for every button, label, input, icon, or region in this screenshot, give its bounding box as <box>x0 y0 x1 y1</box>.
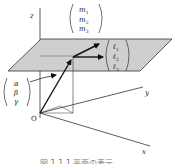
x-axis <box>40 113 150 146</box>
m-vector-right-paren <box>99 4 102 33</box>
point-vector-left-paren <box>4 78 7 106</box>
origin-label: O <box>31 115 37 123</box>
m1-label: m1 <box>79 6 89 15</box>
z-axis-label: z <box>29 12 34 20</box>
y-axis-label: y <box>144 89 150 97</box>
plane-diagram: m1 m2 m3 ℓ1 ℓ2 ℓ3 α β γ z y x O 図 1.1.1 … <box>0 0 173 164</box>
figure-caption: 図 1.1.1 平面の表示 <box>40 158 113 164</box>
m2-label: m2 <box>79 16 89 25</box>
point-vector-right-paren <box>27 78 30 106</box>
point-leader-arrow <box>30 75 56 82</box>
projection-line <box>60 106 73 113</box>
alpha-label: α <box>14 80 19 88</box>
x-axis-label: x <box>142 148 146 156</box>
m-vector-left-paren <box>70 4 73 33</box>
m3-label: m3 <box>79 25 89 34</box>
plane <box>8 39 172 71</box>
gamma-label: γ <box>14 98 19 106</box>
y-axis <box>40 87 143 113</box>
beta-label: β <box>13 89 18 97</box>
